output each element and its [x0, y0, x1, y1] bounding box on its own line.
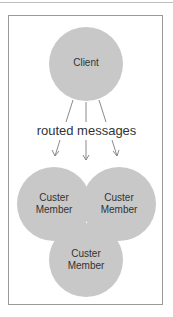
member-line1: Custer [24, 192, 84, 204]
member-line1: Custer [56, 248, 116, 260]
member-label-left: Custer Member [24, 192, 84, 216]
member-line1: Custer [89, 192, 149, 204]
member-label-right: Custer Member [89, 192, 149, 216]
member-line2: Member [89, 204, 149, 216]
member-line2: Member [24, 204, 84, 216]
member-line2: Member [56, 260, 116, 272]
edge-label: routed messages [0, 123, 173, 138]
client-label: Client [56, 57, 116, 69]
member-label-bottom: Custer Member [56, 248, 116, 272]
